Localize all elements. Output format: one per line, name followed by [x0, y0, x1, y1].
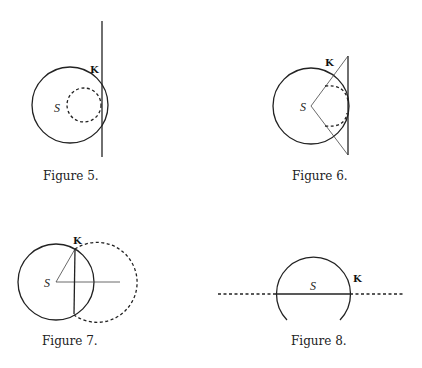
label-k: K — [353, 273, 362, 284]
caption-figure-7: Figure 7. — [42, 334, 98, 348]
radius-to-k — [56, 249, 75, 282]
caption-figure-8: Figure 8. — [291, 334, 347, 348]
label-k: K — [90, 64, 99, 75]
chord — [74, 249, 75, 314]
figure-5: S K Figure 5. — [32, 21, 108, 183]
caption-figure-6: Figure 6. — [292, 169, 348, 183]
caption-figure-5: Figure 5. — [43, 169, 99, 183]
figures-canvas: S K Figure 5. S K Figure 6. S K Figure 7… — [0, 0, 422, 368]
figure-7: S K Figure 7. — [18, 235, 137, 348]
lower-ray — [311, 106, 348, 155]
dashed-circle — [67, 88, 101, 122]
label-s: S — [300, 100, 306, 114]
label-k: K — [73, 235, 82, 246]
label-s: S — [310, 279, 316, 293]
label-k: K — [325, 57, 334, 68]
label-s: S — [54, 101, 60, 115]
figure-8: S K Figure 8. — [218, 257, 404, 348]
figure-6: S K Figure 6. — [273, 56, 349, 183]
label-s: S — [44, 276, 50, 290]
circle-k — [32, 67, 108, 143]
